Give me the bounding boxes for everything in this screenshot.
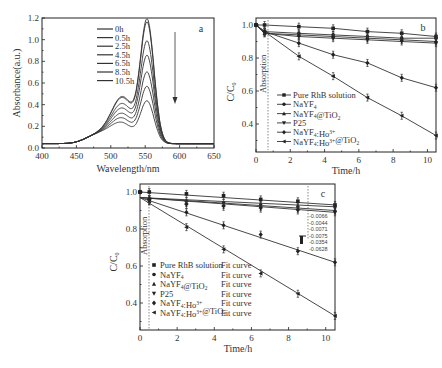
- figure: 400450500550600650 0.00.20.40.60.81.01.2…: [0, 0, 442, 368]
- fit-curve-label: Fit curve: [221, 308, 252, 318]
- panel-b-xticks: 0246810: [254, 149, 433, 165]
- panel-c-xticks: 0246810: [138, 327, 331, 343]
- y-tick-label: 1.0: [242, 20, 254, 30]
- fit-curve-label: Fit curve: [221, 298, 252, 308]
- x-tick-label: 650: [207, 151, 221, 161]
- y-tick-label: 0.2: [28, 121, 39, 131]
- fit-line: [140, 198, 335, 213]
- x-tick-label: 6: [357, 155, 362, 165]
- panel-b-absorption-label: Absorption: [258, 54, 268, 93]
- panel-a: 400450500550600650 0.00.20.40.60.81.01.2…: [11, 13, 221, 174]
- fit-curve-label: Fit curve: [221, 289, 252, 299]
- y-tick-label: 1.2: [28, 13, 39, 23]
- x-tick-label: 6: [249, 333, 254, 343]
- x-tick-label: 8: [286, 333, 291, 343]
- x-tick-label: 0: [254, 155, 259, 165]
- x-tick-label: 4: [212, 333, 217, 343]
- panel-a-ylabel: Absorbance(a.u.): [11, 49, 23, 118]
- fit-curve-label: Fit curve: [221, 270, 252, 280]
- down-arrow-icon: [173, 97, 178, 104]
- series-line: [256, 25, 436, 38]
- y-tick-label: 0.6: [242, 86, 254, 96]
- x-tick-label: 4: [322, 155, 327, 165]
- panel-c-label: c: [321, 188, 326, 199]
- panel-a-legend: 0h0.5h2.5h4.5h6.5h8.5h10.5h: [97, 24, 135, 86]
- panel-a-xlabel: Wavelength/nm: [96, 163, 159, 174]
- fit-curve-label: Fit curve: [221, 279, 252, 289]
- y-tick-label: 0.6: [28, 78, 40, 88]
- panel-a-arrow: [173, 32, 178, 104]
- y-tick-label: 1.0: [28, 35, 40, 45]
- panel-b-series: [254, 22, 438, 140]
- y-tick-label: 0.4: [242, 119, 254, 129]
- x-tick-label: 550: [138, 151, 152, 161]
- x-tick-label: 450: [70, 151, 84, 161]
- x-tick-label: 600: [173, 151, 187, 161]
- panel-c-ylabel: C/C0: [108, 252, 120, 271]
- y-tick-label: 0.4: [126, 298, 138, 308]
- x-tick-label: 0: [138, 333, 143, 343]
- y-tick-label: 1.0: [126, 187, 138, 197]
- x-tick-label: 500: [104, 151, 118, 161]
- panel-b: Absorption 0246810 0.40.60.81.0 Time/h C…: [225, 18, 438, 176]
- rate-constant: -0.0044: [309, 220, 328, 226]
- legend-entry: Pure RhB solution: [160, 260, 224, 270]
- fit-line: [140, 198, 335, 207]
- y-tick-label: 0.6: [126, 261, 138, 271]
- rate-constant: -0.0354: [309, 239, 328, 245]
- panel-b-legend: Pure RhB solutionNaYF4NaYF4@TiO2P25NaYF4…: [277, 90, 359, 148]
- rate-constant: -0.0071: [309, 226, 328, 232]
- fit-line: [140, 198, 335, 263]
- y-tick-label: 0.4: [28, 100, 40, 110]
- y-tick-label: 0.8: [126, 224, 138, 234]
- panel-a-label: a: [199, 23, 204, 34]
- panel-c-xlabel: Time/h: [224, 343, 253, 354]
- panel-c: Absorption 0246810 0.40.60.81.0 Time/h C…: [108, 184, 337, 354]
- panel-b-xlabel: Time/h: [332, 165, 361, 176]
- y-tick-label: 0.8: [28, 56, 40, 66]
- legend-entry: 10.5h: [115, 76, 135, 86]
- x-tick-label: 8: [391, 155, 396, 165]
- x-tick-label: 10: [423, 155, 433, 165]
- panel-b-label: b: [421, 22, 426, 33]
- fit-line: [140, 192, 335, 205]
- x-tick-label: 10: [321, 333, 331, 343]
- x-tick-label: 2: [175, 333, 180, 343]
- rate-constant: -0.0066: [309, 213, 328, 219]
- y-tick-label: 0.0: [28, 143, 40, 153]
- panel-c-legend: Pure RhB solutionFit curveNaYF4Fit curve…: [152, 260, 252, 319]
- rate-constant: -0.0075: [309, 233, 328, 239]
- panel-c-rate-constants: -0.0066-0.0044-0.0071-0.0075-0.0354-0.06…: [309, 213, 328, 252]
- rate-constant: -0.0628: [309, 246, 328, 252]
- legend-entry: P25: [160, 289, 173, 299]
- panel-c-bracket-icon: [299, 236, 306, 244]
- fit-curve-label: Fit curve: [221, 260, 252, 270]
- panel-b-ylabel: C/C0: [225, 82, 237, 101]
- x-tick-label: 2: [288, 155, 293, 165]
- y-tick-label: 0.8: [242, 53, 254, 63]
- panel-c-absorption-label: Absorption: [139, 216, 149, 255]
- spectrum-line: [42, 86, 214, 143]
- panel-a-xticks: 400450500550600650: [35, 145, 221, 161]
